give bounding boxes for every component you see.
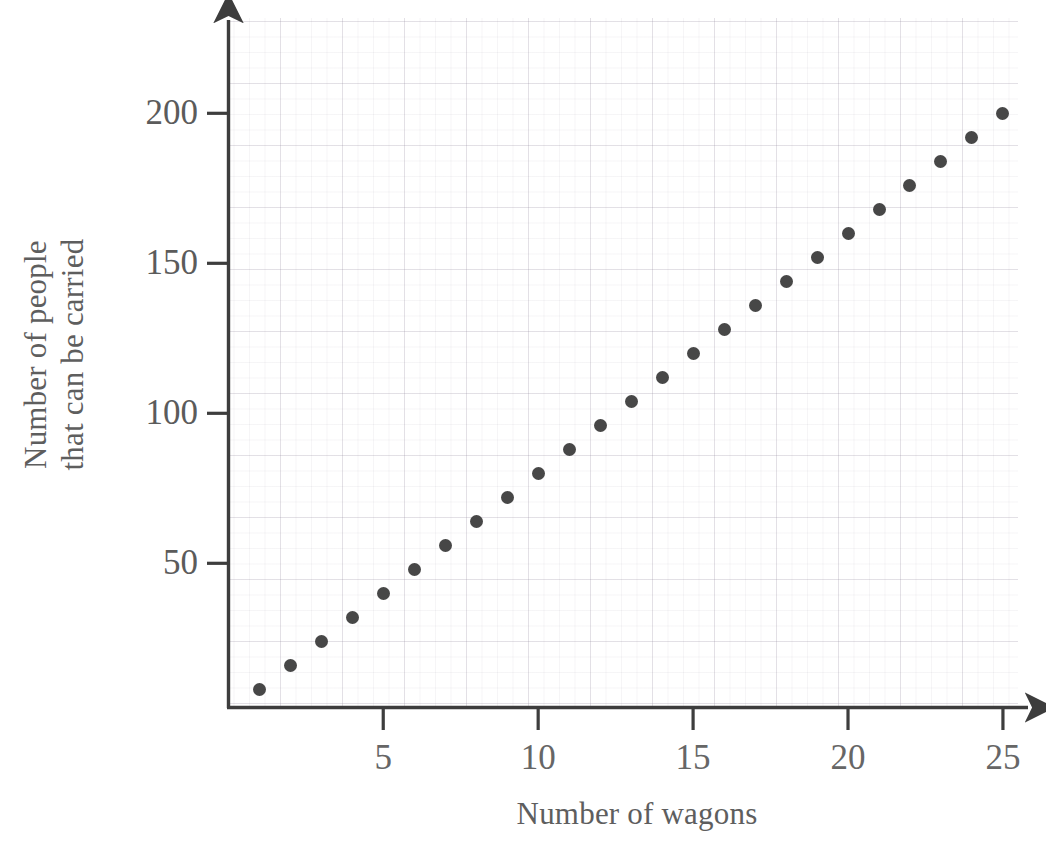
x-tick-label: 25 xyxy=(973,738,1033,778)
y-axis-title-line-1: Number of people xyxy=(18,239,55,471)
data-point xyxy=(377,587,390,600)
y-axis-title: Number of people that can be carried xyxy=(0,0,110,710)
x-tick-label: 20 xyxy=(818,738,878,778)
data-point xyxy=(563,443,576,456)
scatter-plot-figure: Number of people that can be carried 501… xyxy=(0,0,1046,850)
data-point xyxy=(780,275,793,288)
data-point xyxy=(625,395,638,408)
data-point xyxy=(873,203,886,216)
data-point xyxy=(470,515,483,528)
data-point xyxy=(842,227,855,240)
data-point xyxy=(346,611,359,624)
x-tick-label: 15 xyxy=(663,738,723,778)
y-tick-label: 100 xyxy=(108,393,198,433)
data-point xyxy=(315,635,328,648)
y-tick-label: 200 xyxy=(108,93,198,133)
y-tick-label: 150 xyxy=(108,243,198,283)
data-point xyxy=(253,683,266,696)
x-axis-title: Number of wagons xyxy=(228,796,1046,832)
x-tick-label: 5 xyxy=(353,738,413,778)
x-tick-label: 10 xyxy=(508,738,568,778)
data-point xyxy=(439,539,452,552)
data-point xyxy=(501,491,514,504)
y-tick-label: 50 xyxy=(108,543,198,583)
grid-lines xyxy=(228,18,1018,708)
data-point xyxy=(749,299,762,312)
data-point xyxy=(811,251,824,264)
data-point xyxy=(687,347,700,360)
y-axis-title-line-2: that can be carried xyxy=(55,239,92,471)
data-point xyxy=(532,467,545,480)
data-point xyxy=(408,563,421,576)
data-point xyxy=(594,419,607,432)
data-point xyxy=(718,323,731,336)
data-point xyxy=(284,659,297,672)
data-point xyxy=(656,371,669,384)
plot-area xyxy=(228,18,1018,708)
